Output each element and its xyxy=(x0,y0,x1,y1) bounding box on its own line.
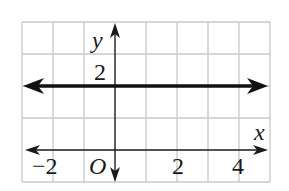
y-axis xyxy=(110,23,120,182)
x-tick-label-2: 2 xyxy=(172,153,184,179)
y-tick-label-2: 2 xyxy=(94,59,106,85)
x-tick-label-4: 4 xyxy=(232,153,244,179)
origin-label: O xyxy=(89,153,106,179)
x-tick-label-neg2: −2 xyxy=(32,153,58,179)
x-axis-label: x xyxy=(253,119,265,145)
y-axis-label: y xyxy=(90,27,103,53)
coordinate-graph: y x 2 −2 O 2 4 xyxy=(0,0,289,191)
